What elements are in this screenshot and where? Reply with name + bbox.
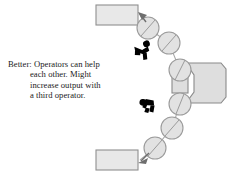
diagram-canvas: Better: Operators can help each other. M… [0,0,227,175]
operator-upper-icon [132,40,155,63]
output-box-bottom [96,150,138,170]
operator-lower-icon [138,98,155,113]
caption-line-1: Better: Operators can help [8,59,120,69]
caption-text: Better: Operators can help each other. M… [8,59,120,101]
roller-4 [169,93,191,115]
arrow-to-bottom-box [138,153,149,164]
caption-line-3: increase output with [8,80,120,90]
roller-5 [161,117,183,139]
roller-3 [169,59,191,81]
caption-line-2: each other. Might [8,69,120,79]
roller-2 [158,32,180,54]
output-box-top [96,5,138,25]
roller-1 [137,17,159,39]
roller-6 [144,137,166,159]
caption-line-4: a third operator. [8,90,120,100]
